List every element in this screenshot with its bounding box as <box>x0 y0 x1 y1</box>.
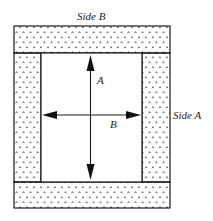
top-band <box>14 26 170 53</box>
label-arrow-b: B <box>110 118 117 130</box>
bottom-band <box>14 182 170 208</box>
frame-diagram: Side B Side A A B <box>0 0 213 221</box>
label-side-b: Side B <box>77 10 106 22</box>
right-column <box>142 53 170 182</box>
left-column <box>14 53 41 182</box>
label-arrow-a: A <box>96 74 104 86</box>
label-side-a: Side A <box>173 109 201 121</box>
